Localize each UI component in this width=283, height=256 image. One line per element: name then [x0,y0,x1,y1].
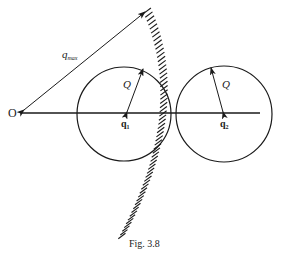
hatch-mark [157,52,164,57]
hatch-mark [154,36,161,41]
hatch-mark [143,180,150,185]
center-label-q1: q1 [121,118,130,130]
hatch-mark [138,192,145,197]
hatch-mark [148,20,155,25]
origin-label: O [8,106,17,120]
hatch-mark [135,199,142,204]
radius-label-q2: Q [222,78,230,90]
hatch-mark [156,44,163,49]
hatch-mark [140,188,147,193]
hatch-mark [150,24,157,29]
figure-caption: Fig. 3.8 [129,238,160,249]
hatch-mark [137,196,144,201]
radius-arrow-q1 [127,69,143,112]
hatch-mark [152,32,159,37]
hatch-mark [147,16,154,21]
hatch-mark [158,56,165,61]
hatch-mark [156,48,163,53]
hatch-mark [144,8,151,13]
hatch-mark [155,40,162,45]
hatch-mark [159,60,166,65]
hatch-mark [151,28,158,33]
radius-arrow-q2 [211,68,223,112]
hatch-mark [144,176,151,181]
hatch-mark [159,65,166,70]
qmax-arrow [24,12,145,110]
figure-3-8-diagram: O qmax Q Q q1 q2 Fig. 3.8 [0,0,283,256]
center-label-q2: q2 [220,118,229,130]
hatch-mark [146,172,153,177]
qmax-label: qmax [62,48,78,61]
radius-label-q1: Q [123,78,131,90]
hatch-mark [160,69,167,74]
hatch-mark [145,12,152,17]
hatch-mark [141,184,148,189]
